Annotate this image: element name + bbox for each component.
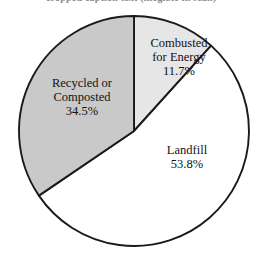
pie-slices-group	[19, 16, 249, 246]
pie-chart-figure: cropped caption text (illegible in scan)…	[0, 0, 267, 264]
pie-chart-canvas	[0, 0, 267, 264]
